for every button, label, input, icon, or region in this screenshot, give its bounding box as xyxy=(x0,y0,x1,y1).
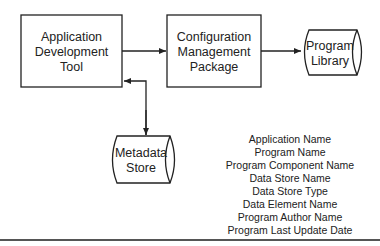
node-label-line: Management xyxy=(178,45,251,59)
metadata-field: Program Author Name xyxy=(238,211,343,223)
bottom-divider xyxy=(0,239,380,241)
node-label-line: Library xyxy=(311,54,350,68)
metadata-field: Program Name xyxy=(254,146,325,158)
metadata-field: Data Store Type xyxy=(252,185,328,197)
metadata-field: Data Store Name xyxy=(249,172,330,184)
node-configuration-management-package: Configuration Management Package xyxy=(167,15,261,87)
metadata-fields-list: Application Name Program Name Program Co… xyxy=(226,133,355,236)
node-program-library: Program Library xyxy=(305,30,362,75)
node-metadata-store: Metadata Store xyxy=(113,136,175,183)
node-label-line: Configuration xyxy=(177,30,251,44)
node-label-line: Development xyxy=(35,45,109,59)
node-label-line: Package xyxy=(190,60,239,74)
diagram-canvas: Application Development Tool Configurati… xyxy=(0,0,380,246)
node-label-line: Store xyxy=(126,161,156,175)
node-label-line: Program xyxy=(306,39,354,53)
metadata-field: Application Name xyxy=(249,133,331,145)
node-label-line: Application xyxy=(41,30,102,44)
metadata-field: Program Last Update Date xyxy=(228,224,353,236)
metadata-field: Program Component Name xyxy=(226,159,355,171)
node-label-line: Metadata xyxy=(115,146,167,160)
arrow-metadata-to-app xyxy=(124,81,146,135)
metadata-field: Data Element Name xyxy=(243,198,338,210)
node-label-line: Tool xyxy=(60,60,83,74)
node-application-development-tool: Application Development Tool xyxy=(21,15,122,87)
